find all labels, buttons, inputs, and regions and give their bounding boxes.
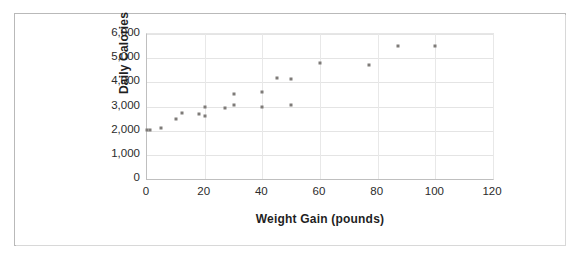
data-point <box>203 105 206 108</box>
data-point <box>261 90 264 93</box>
gridline-vertical <box>493 34 494 179</box>
data-point <box>368 63 371 66</box>
y-axis-tick-label: 2,000 <box>88 124 140 135</box>
data-point <box>232 92 235 95</box>
y-axis-title: Daily Calories <box>117 0 133 118</box>
x-axis-tick-labels: 020406080100120 <box>146 185 494 201</box>
data-point <box>174 117 177 120</box>
data-point <box>319 61 322 64</box>
data-point <box>148 129 151 132</box>
x-axis-tick-label: 80 <box>347 185 407 197</box>
gridline-vertical <box>378 34 379 179</box>
plot-area <box>146 33 494 180</box>
y-axis-tick-label: 0 <box>88 172 140 183</box>
data-point <box>160 127 163 130</box>
data-point <box>275 76 278 79</box>
data-point <box>396 45 399 48</box>
data-point <box>203 114 206 117</box>
gridline-vertical <box>320 34 321 179</box>
data-point <box>180 112 183 115</box>
x-axis-tick-label: 0 <box>116 185 176 197</box>
x-axis-title: Weight Gain (pounds) <box>146 212 494 226</box>
scatter-chart: 01,0002,0003,0004,0005,0006,000 02040608… <box>0 0 581 263</box>
x-axis-tick-label: 100 <box>404 185 464 197</box>
x-axis-tick-label: 40 <box>231 185 291 197</box>
data-point <box>434 45 437 48</box>
data-point <box>223 106 226 109</box>
data-point <box>290 78 293 81</box>
y-axis-tick-label: 1,000 <box>88 148 140 159</box>
x-axis-tick-label: 60 <box>289 185 349 197</box>
gridline-vertical <box>435 34 436 179</box>
data-point <box>232 103 235 106</box>
data-point <box>290 103 293 106</box>
x-axis-tick-label: 20 <box>174 185 234 197</box>
data-point <box>197 112 200 115</box>
data-point <box>261 105 264 108</box>
x-axis-tick-label: 120 <box>462 185 522 197</box>
